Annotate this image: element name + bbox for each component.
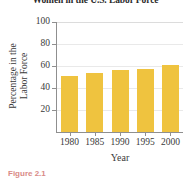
- bar-2000: [162, 65, 179, 132]
- y-tick-80: [52, 44, 57, 45]
- y-tick-label-40: 40: [41, 82, 51, 93]
- chart-title: Women in the U.S. Labor Force: [0, 0, 191, 5]
- bar-1990: [112, 70, 129, 132]
- y-axis-title-text: Percentage in the Labor Force: [8, 43, 30, 108]
- y-axis-title: Percentage in the Labor Force: [6, 20, 32, 132]
- bar-1995: [137, 69, 154, 132]
- y-tick-20: [52, 110, 57, 111]
- x-tick-label-1980: 1980: [57, 136, 83, 148]
- y-axis-line: [56, 22, 57, 132]
- x-tick-label-1985: 1985: [82, 136, 108, 148]
- y-axis-title-line-1: Percentage in the: [8, 43, 18, 108]
- y-tick-label-60: 60: [41, 60, 51, 71]
- y-tick-label-100: 100: [36, 16, 50, 27]
- bar-1985: [86, 73, 103, 132]
- gridline-100: [57, 22, 183, 23]
- y-tick-40: [52, 88, 57, 89]
- plot-area: 20406080100: [57, 22, 183, 132]
- y-tick-label-80: 80: [41, 38, 51, 49]
- x-axis-title: Year: [57, 152, 183, 164]
- bar-1980: [61, 76, 78, 132]
- x-tick-label-2000: 2000: [157, 136, 183, 148]
- gridline-80: [57, 44, 183, 45]
- x-axis-tick-labels: 19801985199019952000: [50, 136, 191, 148]
- y-tick-60: [52, 66, 57, 67]
- y-tick-label-20: 20: [41, 104, 51, 115]
- x-tick-label-1995: 1995: [132, 136, 158, 148]
- y-tick-100: [52, 22, 57, 23]
- figure-caption: Figure 2.1: [8, 170, 128, 178]
- figure-bar-chart: Women in the U.S. Labor Force Percentage…: [0, 0, 191, 178]
- y-axis-title-line-2: Labor Force: [19, 43, 30, 108]
- x-tick-label-1990: 1990: [107, 136, 133, 148]
